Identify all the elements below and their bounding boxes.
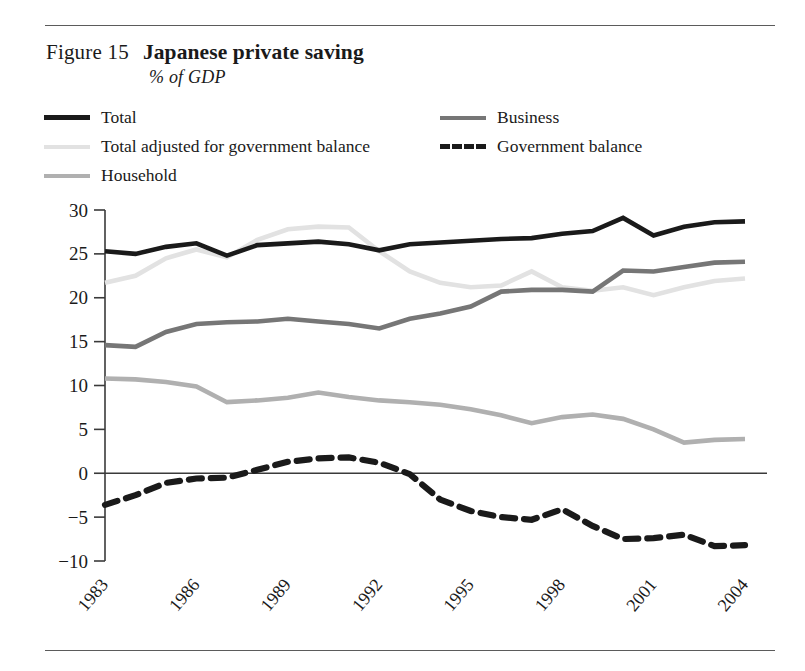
- chart-plot-area: 302520151050−5−1019831986198919921995199…: [0, 0, 805, 671]
- x-tick-label: 1998: [531, 575, 569, 615]
- x-tick-label-group: 2004: [714, 575, 752, 615]
- series-line-total-adjusted-for-government-balance: [105, 227, 745, 295]
- series-line-business: [105, 262, 745, 347]
- x-tick-label-group: 1995: [439, 575, 477, 615]
- x-tick-label-group: 1983: [74, 575, 112, 615]
- x-tick-label-group: 2001: [622, 575, 660, 615]
- y-tick-label: −10: [58, 551, 88, 572]
- figure-container: Figure 15 Japanese private saving % of G…: [0, 0, 805, 671]
- x-tick-label: 1995: [439, 575, 477, 615]
- x-tick-label-group: 1998: [531, 575, 569, 615]
- x-tick-label-group: 1989: [256, 575, 294, 615]
- y-tick-label: 20: [69, 287, 88, 308]
- y-tick-label: 30: [69, 200, 88, 221]
- y-tick-label: 10: [69, 375, 88, 396]
- series-line-household: [105, 378, 745, 442]
- y-tick-label: −5: [68, 507, 88, 528]
- series-line-government-balance: [105, 457, 745, 546]
- x-tick-label: 1986: [165, 575, 203, 615]
- y-tick-label: 5: [79, 419, 89, 440]
- y-tick-label: 25: [69, 243, 88, 264]
- x-tick-label: 1992: [348, 575, 386, 615]
- x-tick-label-group: 1986: [165, 575, 203, 615]
- x-tick-label: 2001: [622, 575, 660, 615]
- line-chart-svg: 302520151050−5−1019831986198919921995199…: [0, 0, 805, 671]
- x-tick-label: 2004: [714, 575, 752, 615]
- x-tick-label: 1983: [74, 575, 112, 615]
- y-tick-label: 0: [79, 463, 89, 484]
- x-tick-label: 1989: [256, 575, 294, 615]
- y-tick-label: 15: [69, 331, 88, 352]
- x-tick-label-group: 1992: [348, 575, 386, 615]
